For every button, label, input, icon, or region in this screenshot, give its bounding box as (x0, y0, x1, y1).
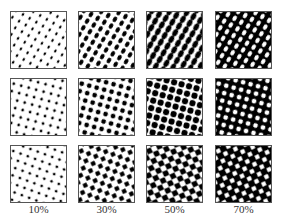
label-70: 70% (215, 203, 272, 215)
halftone-panel-elliptical-50 (146, 11, 203, 69)
label-50: 50% (146, 203, 203, 215)
halftone-panel-elliptical-10 (10, 11, 67, 69)
halftone-panel-round-10 (10, 78, 67, 136)
halftone-panel-square-50 (146, 145, 203, 203)
label-30: 30% (78, 203, 135, 215)
halftone-panel-square-70 (215, 145, 272, 203)
halftone-panel-round-50 (146, 78, 203, 136)
halftone-panel-square-30 (78, 145, 135, 203)
halftone-panel-elliptical-70 (215, 11, 272, 69)
halftone-panel-round-30 (78, 78, 135, 136)
halftone-panel-elliptical-30 (78, 11, 135, 69)
halftone-panel-square-10 (10, 145, 67, 203)
label-10: 10% (10, 203, 67, 215)
halftone-panel-round-70 (215, 78, 272, 136)
